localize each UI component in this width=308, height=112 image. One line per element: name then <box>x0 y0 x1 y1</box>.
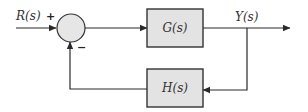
plus-sign: + <box>46 11 55 22</box>
feedback-tap-line <box>203 28 247 90</box>
summing-junction <box>57 14 85 42</box>
minus-sign: − <box>77 42 86 53</box>
output-label: Y(s) <box>235 11 258 23</box>
input-label: R(s) <box>16 10 41 22</box>
feedback-block-label: H(s) <box>147 69 203 107</box>
forward-block-label: G(s) <box>147 9 203 47</box>
